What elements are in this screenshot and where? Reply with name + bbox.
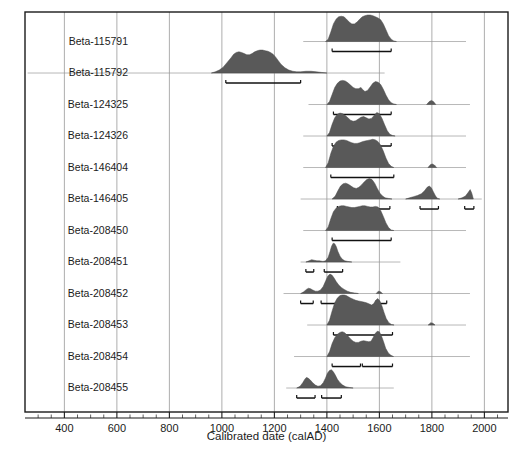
probability-distribution — [326, 139, 394, 167]
x-axis-title: Calibrated date (calAD) — [207, 430, 327, 442]
row-label-beta-208452: Beta-208452 — [68, 287, 128, 299]
radiocarbon-calibration-chart: 400600800100012001400160018002000 Beta-1… — [0, 0, 531, 458]
probability-distribution — [306, 243, 352, 262]
calibration-plot-figure: 400600800100012001400160018002000 Beta-1… — [0, 0, 531, 458]
x-tick-label-800: 800 — [160, 422, 178, 434]
row-label-beta-115792: Beta-115792 — [69, 66, 129, 78]
row-label-beta-208450: Beta-208450 — [68, 224, 128, 236]
probability-distribution — [327, 80, 397, 104]
probability-distribution — [376, 291, 382, 293]
x-tick-label-2000: 2000 — [472, 422, 496, 434]
probability-distribution — [297, 370, 353, 388]
row-label-beta-208455: Beta-208455 — [68, 381, 128, 393]
probability-distribution — [326, 15, 397, 41]
x-tick-label-600: 600 — [108, 422, 126, 434]
row-label-beta-115791: Beta-115791 — [69, 35, 129, 47]
probability-distribution — [327, 295, 394, 325]
row-label-beta-208453: Beta-208453 — [68, 318, 128, 330]
probability-distribution — [458, 190, 473, 199]
probability-distribution — [301, 274, 359, 293]
row-label-beta-146405: Beta-146405 — [68, 192, 128, 204]
probability-distribution — [428, 164, 437, 168]
chart-row-labels: Beta-115791Beta-115792Beta-124325Beta-12… — [68, 35, 128, 394]
row-label-beta-146404: Beta-146404 — [68, 161, 128, 173]
x-tick-label-400: 400 — [55, 422, 73, 434]
probability-distribution — [332, 178, 392, 199]
row-label-beta-124326: Beta-124326 — [68, 129, 128, 141]
x-tick-label-1800: 1800 — [420, 422, 444, 434]
x-tick-label-1600: 1600 — [367, 422, 391, 434]
row-label-beta-208454: Beta-208454 — [68, 350, 128, 362]
probability-distribution — [211, 50, 327, 73]
probability-distribution — [428, 323, 435, 325]
probability-distribution — [327, 113, 395, 137]
row-label-beta-124325: Beta-124325 — [68, 98, 128, 110]
row-label-beta-208451: Beta-208451 — [68, 255, 128, 267]
probability-distribution — [427, 100, 436, 104]
probability-distribution — [406, 186, 440, 199]
